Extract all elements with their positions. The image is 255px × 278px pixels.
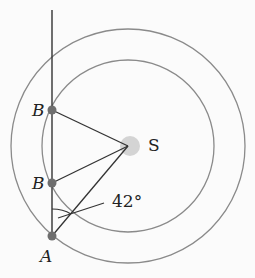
label-b-upper: B — [32, 102, 45, 119]
diagram-svg — [0, 0, 255, 278]
label-angle: 42° — [112, 193, 142, 210]
angle-arc — [52, 209, 71, 214]
label-b-lower: B — [32, 175, 45, 192]
label-s: S — [148, 137, 160, 154]
diagram: B B A S 42° — [0, 0, 255, 278]
label-a: A — [40, 248, 52, 265]
sun-glow — [120, 136, 140, 156]
point-a — [48, 232, 57, 241]
line-s-b-lower — [52, 146, 128, 183]
point-b-lower — [48, 179, 57, 188]
line-s-b-upper — [52, 110, 128, 146]
point-b-upper — [48, 106, 57, 115]
